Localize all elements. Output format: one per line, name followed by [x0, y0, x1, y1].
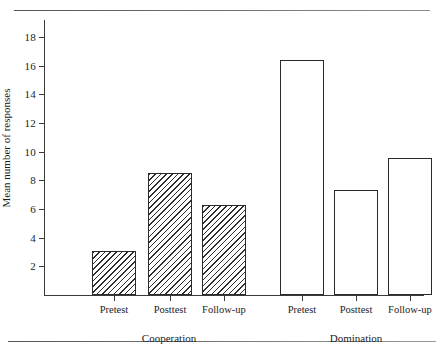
- x-tick-mark: [356, 296, 357, 301]
- y-tick-mark: [39, 152, 45, 153]
- x-tick-label: Follow-up: [202, 304, 246, 315]
- x-tick-mark: [170, 296, 171, 301]
- plot-area: 24681012141618 PretestPosttestFollow-upP…: [44, 20, 424, 296]
- y-tick-label: 14: [25, 88, 36, 100]
- bar: [280, 60, 324, 295]
- x-axis-line: [44, 295, 424, 296]
- x-tick-mark: [302, 296, 303, 301]
- x-tick-label: Follow-up: [388, 304, 432, 315]
- y-tick-mark: [39, 94, 45, 95]
- y-tick-mark: [39, 37, 45, 38]
- top-rule: [14, 10, 430, 11]
- group-label: Cooperation: [142, 332, 196, 344]
- bar-chart-figure: Mean number of responses 24681012141618 …: [0, 0, 444, 352]
- y-tick-mark: [39, 180, 45, 181]
- y-tick-label: 12: [25, 117, 36, 129]
- bar: [334, 190, 378, 295]
- group-label: Domination: [330, 332, 383, 344]
- y-tick-mark: [39, 66, 45, 67]
- bar: [148, 173, 192, 295]
- y-tick-mark: [39, 123, 45, 124]
- y-tick-label: 16: [25, 60, 36, 72]
- x-tick-label: Pretest: [100, 304, 129, 315]
- y-axis-line: [44, 20, 45, 296]
- y-tick-label: 2: [30, 260, 36, 272]
- y-tick-mark: [39, 209, 45, 210]
- y-axis-title: Mean number of responses: [0, 89, 12, 208]
- bar: [92, 251, 136, 295]
- y-tick-mark: [39, 238, 45, 239]
- bar: [202, 205, 246, 295]
- y-tick-label: 4: [30, 232, 36, 244]
- x-tick-mark: [410, 296, 411, 301]
- y-tick-label: 18: [25, 31, 36, 43]
- y-tick-label: 8: [30, 174, 36, 186]
- x-tick-mark: [114, 296, 115, 301]
- y-tick-mark: [39, 266, 45, 267]
- y-tick-label: 10: [25, 146, 36, 158]
- x-tick-mark: [224, 296, 225, 301]
- bar: [388, 158, 432, 296]
- y-tick-label: 6: [30, 203, 36, 215]
- x-tick-label: Posttest: [340, 304, 373, 315]
- x-tick-label: Pretest: [288, 304, 317, 315]
- x-tick-label: Posttest: [154, 304, 187, 315]
